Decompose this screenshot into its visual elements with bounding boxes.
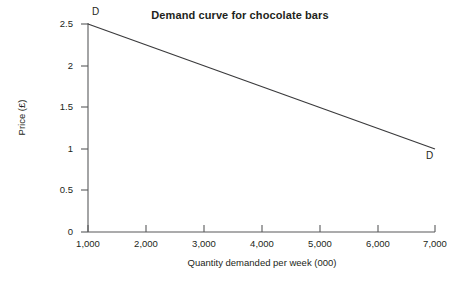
x-tick-label-2000: 2,000	[121, 238, 171, 249]
x-tick-label-5000: 5,000	[295, 238, 345, 249]
demand-curve-line	[88, 24, 435, 149]
x-tick-label-1000: 1,000	[63, 238, 113, 249]
y-tick-label-1: 1	[33, 143, 73, 154]
x-tick-label-4000: 4,000	[237, 238, 287, 249]
demand-curve-chart: Demand curve for chocolate bars 2.5 2 1.…	[0, 0, 463, 281]
x-axis-title: Quantity demanded per week (000)	[88, 257, 436, 268]
x-tick-label-6000: 6,000	[353, 238, 403, 249]
y-tick-label-1.5: 1.5	[33, 101, 73, 112]
x-tick-label-3000: 3,000	[179, 238, 229, 249]
y-tick-label-0: 0	[33, 226, 73, 237]
x-tick-label-7000: 7,000	[410, 238, 460, 249]
demand-curve-label-top: D	[92, 6, 99, 17]
y-tick-label-2.5: 2.5	[33, 18, 73, 29]
y-tick-label-2: 2	[33, 60, 73, 71]
y-tick-label-0.5: 0.5	[33, 184, 73, 195]
demand-curve-label-bottom: D	[426, 150, 433, 161]
y-axis-title: Price (£)	[16, 88, 27, 148]
